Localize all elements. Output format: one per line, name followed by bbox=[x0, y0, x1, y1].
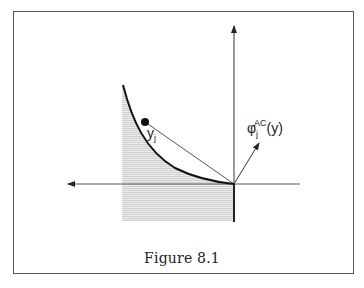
vector-arrow bbox=[234, 143, 259, 184]
vector-label-sup: AC bbox=[254, 118, 267, 128]
vector-label-sub: j bbox=[256, 129, 258, 139]
vector-label: φjAC(y) bbox=[247, 120, 283, 136]
shaded-region bbox=[122, 85, 234, 221]
figure-caption: Figure 8.1 bbox=[0, 250, 364, 266]
vector-label-arg: (y) bbox=[267, 120, 283, 136]
point-label-base: y bbox=[147, 125, 154, 141]
point-label-sub: j bbox=[154, 133, 156, 143]
diagram-canvas bbox=[0, 0, 364, 288]
point-label: yj bbox=[147, 125, 156, 143]
